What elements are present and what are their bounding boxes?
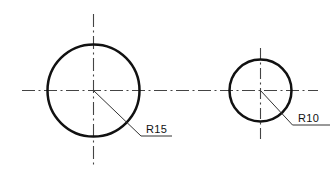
technical-drawing-canvas: R15 R10 — [0, 0, 334, 180]
radius-label-large: R15 — [146, 123, 167, 135]
cad-drawing-svg: R15 R10 — [0, 0, 334, 180]
radius-label-small: R10 — [298, 112, 319, 124]
